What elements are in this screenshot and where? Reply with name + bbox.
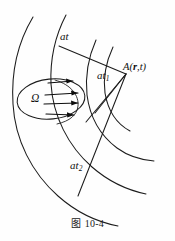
velocity-arrow-3 <box>44 100 78 105</box>
caption-number: 10-4 <box>85 218 105 229</box>
outer-arc-right <box>86 40 154 161</box>
label-omega: Ω <box>31 93 39 105</box>
radius-line-at2 <box>78 74 126 196</box>
figure-container: at at1 at2 Ω A(r,t) 图 10-4 <box>0 0 175 241</box>
diagram-canvas <box>0 0 175 241</box>
label-at1: at1 <box>97 70 109 83</box>
label-point-a-prefix: A( <box>123 61 133 72</box>
velocity-arrow-4 <box>46 112 74 117</box>
label-at2-base: at <box>70 159 79 171</box>
label-point-a: A(r,t) <box>123 62 146 73</box>
figure-caption: 图 10-4 <box>0 215 175 230</box>
label-at2-subscript: 2 <box>79 164 83 173</box>
label-at2: at2 <box>70 160 82 173</box>
label-point-a-suffix: ) <box>143 61 147 72</box>
velocity-arrow-2 <box>45 90 78 95</box>
caption-prefix: 图 <box>71 218 81 229</box>
label-at1-subscript: 1 <box>106 74 110 83</box>
label-at1-base: at <box>97 69 106 81</box>
label-at: at <box>60 31 69 42</box>
